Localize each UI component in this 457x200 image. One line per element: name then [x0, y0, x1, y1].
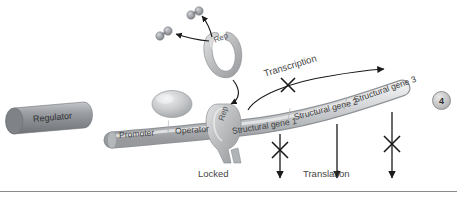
inducer-molecule-icon — [156, 27, 172, 40]
translation-label: Translation — [303, 168, 350, 179]
repressor-binding-arrow — [231, 80, 238, 104]
translation-arrow — [384, 112, 400, 178]
figure-divider — [0, 191, 457, 192]
rna-polymerase-icon — [152, 91, 192, 118]
figure-part-badge: 4 — [432, 91, 451, 110]
translation-arrow — [272, 134, 288, 178]
blocked-x-icon — [281, 78, 295, 92]
locked-label: Locked — [198, 168, 229, 179]
inducer-molecule-icon — [187, 7, 203, 19]
figure-canvas: Regulator Promoter Operator Structural g… — [0, 0, 457, 200]
